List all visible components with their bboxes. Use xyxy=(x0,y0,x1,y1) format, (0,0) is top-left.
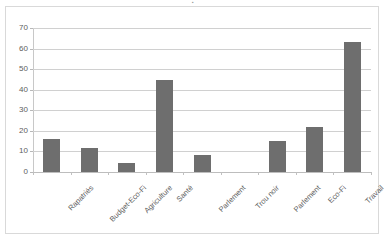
chart-screenshot: ▪ 010203040506070 RapatriésBudget-Eco-Fi… xyxy=(0,0,386,241)
y-axis-tick-mark xyxy=(30,172,33,173)
y-axis-tick-mark xyxy=(30,90,33,91)
x-axis-tick-mark xyxy=(258,172,259,175)
y-axis-tick-label: 0 xyxy=(24,168,28,176)
y-axis-tick-label: 20 xyxy=(19,127,28,135)
y-axis-tick-mark xyxy=(30,151,33,152)
x-axis-tick-mark xyxy=(296,172,297,175)
bar[interactable] xyxy=(306,127,323,172)
y-axis-tick-mark xyxy=(30,28,33,29)
y-axis-tick-label: 30 xyxy=(19,106,28,114)
x-axis-tick-mark xyxy=(333,172,334,175)
y-axis-tick-label: 70 xyxy=(19,24,28,32)
x-axis-tick-mark xyxy=(221,172,222,175)
y-axis-tick-mark xyxy=(30,110,33,111)
y-axis-tick-mark xyxy=(30,69,33,70)
x-axis-tick-mark xyxy=(71,172,72,175)
y-axis-tick-label: 50 xyxy=(19,65,28,73)
cropped-title-remnant: ▪ xyxy=(0,0,386,5)
bar[interactable] xyxy=(81,148,98,172)
y-axis-tick-labels: 010203040506070 xyxy=(0,0,28,241)
y-axis-tick-mark xyxy=(30,49,33,50)
x-axis-tick-marks xyxy=(33,172,371,178)
y-axis-tick-mark xyxy=(30,131,33,132)
x-axis-tick-mark xyxy=(183,172,184,175)
x-axis-tick-mark xyxy=(146,172,147,175)
y-axis-tick-label: 10 xyxy=(19,147,28,155)
x-axis-tick-mark xyxy=(108,172,109,175)
bar[interactable] xyxy=(118,163,135,172)
plot-area xyxy=(33,28,371,172)
bar[interactable] xyxy=(269,141,286,172)
x-axis-tick-mark xyxy=(33,172,34,175)
y-axis-tick-label: 40 xyxy=(19,86,28,94)
bar[interactable] xyxy=(156,80,173,172)
y-axis-tick-label: 60 xyxy=(19,45,28,53)
x-axis-tick-mark xyxy=(371,172,372,175)
bars-group xyxy=(33,28,371,172)
bar[interactable] xyxy=(194,155,211,172)
bar[interactable] xyxy=(344,42,361,172)
bar[interactable] xyxy=(43,139,60,172)
